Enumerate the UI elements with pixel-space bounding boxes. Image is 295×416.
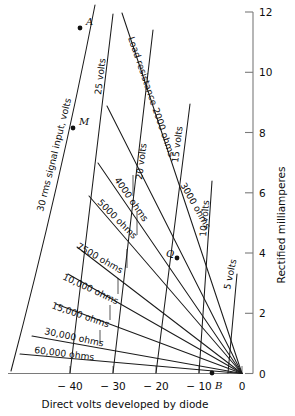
voltage-label-25: 25 volts [92, 57, 107, 95]
chart-canvas: − 40 − 30 − 20 − 10 0 12 10 8 6 4 2 0 Di… [0, 0, 295, 416]
x-tick-label: 0 [239, 380, 246, 392]
y-tick-label: 2 [259, 307, 266, 319]
point-a-marker [78, 26, 83, 31]
point-label-m: M [78, 116, 90, 127]
y-tick-label: 8 [259, 127, 266, 139]
point-label-a: A [85, 16, 93, 27]
voltage-curve-labels: 30 rms signal input, volts 25 volts 20 v… [34, 57, 238, 290]
x-axis-title: Direct volts developed by diode [42, 398, 209, 410]
diode-rectifier-chart: − 40 − 30 − 20 − 10 0 12 10 8 6 4 2 0 Di… [0, 0, 295, 416]
x-tick-label: − 20 [143, 380, 169, 392]
y-tick-label: 12 [259, 6, 272, 18]
load-line-7500 [77, 247, 242, 374]
load-label-10000: 10,000 ohms [61, 271, 120, 307]
y-tick-label: 6 [259, 187, 266, 199]
voltage-label-15: 15 volts [169, 125, 184, 163]
load-label-15000: 15,000 ohms [50, 299, 111, 329]
point-label-b: B [214, 380, 222, 391]
y-tick-label: 0 [259, 368, 266, 380]
point-m-marker [71, 126, 76, 131]
x-tick-label: − 30 [100, 380, 126, 392]
y-tick-label: 4 [259, 247, 266, 259]
load-label-60000: 60,000 ohms [34, 344, 95, 362]
point-q-marker [175, 256, 180, 261]
x-tick-label: − 10 [186, 380, 212, 392]
load-resistance-labels: Load resistance 2000 ohms 3000 ohms 4000… [34, 35, 214, 362]
y-axis-title: Rectified milliamperes [275, 167, 287, 284]
x-tick-label: − 40 [57, 380, 83, 392]
y-tick-label: 10 [259, 66, 272, 78]
load-label-2000: Load resistance 2000 ohms [126, 35, 178, 158]
y-axis [245, 12, 253, 374]
voltage-label-20: 20 volts [133, 142, 148, 180]
load-label-30000: 30,000 ohms [44, 325, 105, 348]
voltage-label-30: 30 rms signal input, volts [34, 97, 73, 213]
point-label-q: Q [166, 248, 174, 259]
y-tick-labels: 12 10 8 6 4 2 0 [259, 6, 272, 380]
point-b-marker [210, 371, 215, 376]
